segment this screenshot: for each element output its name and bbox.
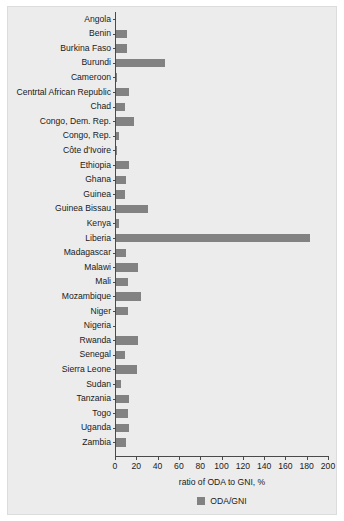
bar-row: Rwanda [115,333,328,348]
bar-row: Kenya [115,216,328,231]
y-axis-label: Burkina Faso [60,41,111,56]
legend-swatch-oda-gni [197,497,205,505]
y-axis-label: Malawi [84,260,111,275]
bar-row: Angola [115,12,328,27]
bar [115,263,138,271]
bar-row: Tanzania [115,392,328,407]
bar-row: Chad [115,100,328,115]
bar-row: Benin [115,27,328,42]
y-axis-label: Niger [90,304,111,319]
y-axis-label: Mali [95,274,111,289]
bar-row: Centrtal African Republic [115,85,328,100]
bar [115,117,134,125]
x-axis-tick [200,456,201,460]
bar [115,424,129,432]
y-axis-label: Benin [89,26,111,41]
bar [115,190,125,198]
chart-figure: AngolaBeninBurkina FasoBurundiCameroonCe… [0,0,344,521]
y-axis-label: Côte d'Ivoire [63,143,111,158]
bar-row: Ethiopia [115,158,328,173]
x-axis-title: ratio of ODA to GNI, % [115,477,329,487]
bar-row: Zambia [115,435,328,450]
x-axis-tick-label: 200 [313,461,343,471]
bar [115,278,128,286]
y-axis-label: Rwanda [79,333,111,348]
x-axis-tick [115,456,116,460]
x-axis-tick [179,456,180,460]
y-axis-label: Sierra Leone [62,362,111,377]
x-axis-tick [285,456,286,460]
bar-row: Congo, Dem. Rep. [115,114,328,129]
y-axis-label: Uganda [81,420,111,435]
bar [115,161,129,169]
y-axis-label: Mozambique [62,289,111,304]
y-axis-label: Togo [92,406,111,421]
bar-row: Guinea [115,187,328,202]
bar [115,88,129,96]
bar-row: Mali [115,275,328,290]
bar-row: Malawi [115,260,328,275]
y-axis-label: Congo, Dem. Rep. [40,114,111,129]
y-axis-label: Angola [84,12,111,27]
bar [115,44,127,52]
bar [115,205,148,213]
bar [115,409,128,417]
y-axis-label: Senegal [79,347,111,362]
y-axis-label: Ghana [85,172,111,187]
bar-row: Madagascar [115,246,328,261]
bar-row: Liberia [115,231,328,246]
bar-row: Cameroon [115,70,328,85]
bar-row: Mozambique [115,289,328,304]
bar [115,395,129,403]
x-axis-tick [328,456,329,460]
bar [115,30,127,38]
bar-row: Côte d'Ivoire [115,143,328,158]
y-axis-line [115,12,116,456]
y-axis-label: Tanzania [77,391,111,406]
bar-row: Sierra Leone [115,362,328,377]
y-axis-label: Centrtal African Republic [16,85,111,100]
bar [115,438,126,446]
bar-row: Togo [115,406,328,421]
bar [115,365,137,373]
legend-label-oda-gni: ODA/GNI [210,496,246,506]
bar-row: Congo, Rep. [115,129,328,144]
bar-row: Senegal [115,348,328,363]
bar [115,351,125,359]
x-axis-tick [264,456,265,460]
bar [115,176,126,184]
bar [115,234,310,242]
y-axis-label: Liberia [85,231,111,246]
bar-row: Burundi [115,56,328,71]
bar-row: Niger [115,304,328,319]
bar-row: Nigeria [115,319,328,334]
bar [115,249,126,257]
bar [115,307,128,315]
bar [115,336,138,344]
y-axis-label: Cameroon [71,70,111,85]
y-axis-label: Chad [90,99,111,114]
y-axis-label: Guinea [83,187,111,202]
y-axis-label: Burundi [81,55,111,70]
x-axis-tick [136,456,137,460]
bar-row: Ghana [115,173,328,188]
y-axis-label: Kenya [87,216,111,231]
bar-row: Guinea Bissau [115,202,328,217]
y-axis-label: Zambia [82,435,111,450]
x-axis-tick [307,456,308,460]
plot-area: AngolaBeninBurkina FasoBurundiCameroonCe… [115,12,328,455]
y-axis-label: Congo, Rep. [63,128,111,143]
y-axis-label: Ethiopia [80,158,111,173]
bar [115,292,141,300]
bar [115,59,165,67]
y-axis-label: Nigeria [84,318,111,333]
chart-legend: ODA/GNI [115,496,329,506]
x-axis-tick [158,456,159,460]
bar-row: Uganda [115,421,328,436]
x-axis-tick [243,456,244,460]
y-axis-label: Madagascar [64,245,111,260]
y-axis-label: Sudan [86,377,111,392]
bar-row: Burkina Faso [115,41,328,56]
y-axis-label: Guinea Bissau [55,201,111,216]
x-axis-tick [222,456,223,460]
